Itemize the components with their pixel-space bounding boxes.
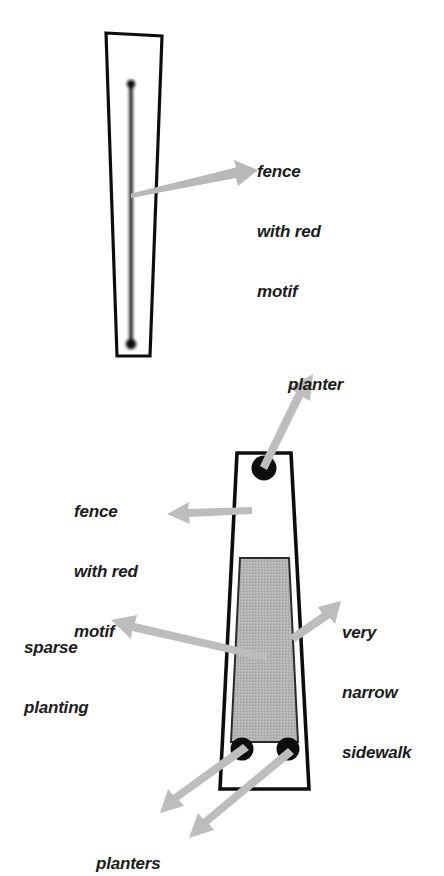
label-sparse-planting: sparse planting (24, 598, 89, 758)
label-line: sparse (24, 638, 89, 658)
label-very-narrow-sidewalk: very narrow sidewalk (342, 583, 411, 803)
label-line: planters (96, 854, 161, 874)
label-planter-single: planter (288, 335, 343, 435)
arrow-very-narrow-sidewalk (289, 601, 341, 642)
arrow-fence-bottom (167, 502, 252, 524)
label-line: with red (257, 222, 321, 242)
arrow-planters-right (189, 748, 294, 838)
arrow-planters-left (160, 744, 249, 813)
label-line: with red (74, 562, 138, 582)
label-line: fence (257, 162, 321, 182)
label-line: very (342, 623, 411, 643)
label-line: motif (257, 282, 321, 302)
label-line: narrow (342, 683, 411, 703)
label-line: fence (74, 502, 138, 522)
label-line: planter (288, 375, 343, 395)
upper-fence-node-top (127, 80, 135, 88)
lower-diagram (220, 453, 309, 789)
label-line: planting (24, 698, 89, 718)
upper-fence-node-bottom (126, 339, 136, 349)
label-line: sidewalk (342, 743, 411, 763)
label-fence-red-motif-top: fence with red motif (257, 122, 321, 342)
label-planters-pair: planters (96, 814, 161, 876)
